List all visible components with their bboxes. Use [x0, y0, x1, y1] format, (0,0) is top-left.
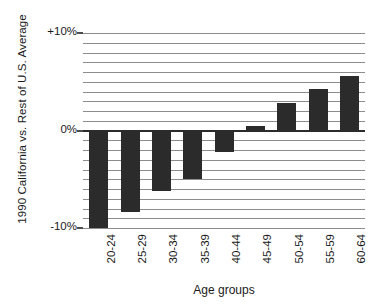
y-tick-mark: [77, 32, 83, 34]
y-tick-mark: [77, 227, 83, 229]
gridline: [83, 53, 365, 54]
x-tick-label: 60-64: [355, 234, 367, 263]
x-tick-label: 30-34: [167, 234, 179, 263]
y-tick-label: -10%: [25, 220, 77, 232]
gridline: [83, 62, 365, 63]
gridline: [83, 218, 365, 219]
x-axis-title: Age groups: [83, 283, 365, 297]
plot-area: [83, 33, 365, 228]
bar: [340, 76, 359, 131]
bar: [277, 103, 296, 130]
y-tick-label: +10%: [25, 25, 77, 37]
x-tick-label: 55-59: [324, 234, 336, 263]
x-tick-label: 35-39: [199, 234, 211, 263]
x-tick-label: 40-44: [230, 234, 242, 263]
x-axis-tick-labels: 20-2425-2930-3435-3940-4445-4950-5455-59…: [83, 228, 365, 276]
gridline: [83, 72, 365, 73]
bar: [89, 131, 108, 229]
y-tick-mark: [77, 130, 83, 132]
bar: [121, 131, 140, 213]
y-tick-label: 0%: [25, 123, 77, 135]
bar: [183, 131, 202, 180]
bar: [309, 89, 328, 131]
y-axis-tick-labels: +10%0%-10%: [22, 0, 77, 306]
x-tick-label: 45-49: [261, 234, 273, 263]
gridline: [83, 43, 365, 44]
bar: [215, 131, 234, 152]
bar: [152, 131, 171, 191]
x-tick-label: 20-24: [105, 234, 117, 263]
gridline: [83, 82, 365, 83]
bar: [246, 126, 265, 131]
x-tick-label: 25-29: [136, 234, 148, 263]
x-tick-label: 50-54: [293, 234, 305, 263]
chart-figure: 1990 California vs. Rest of U.S. Average…: [0, 0, 377, 306]
gridline: [83, 33, 365, 34]
